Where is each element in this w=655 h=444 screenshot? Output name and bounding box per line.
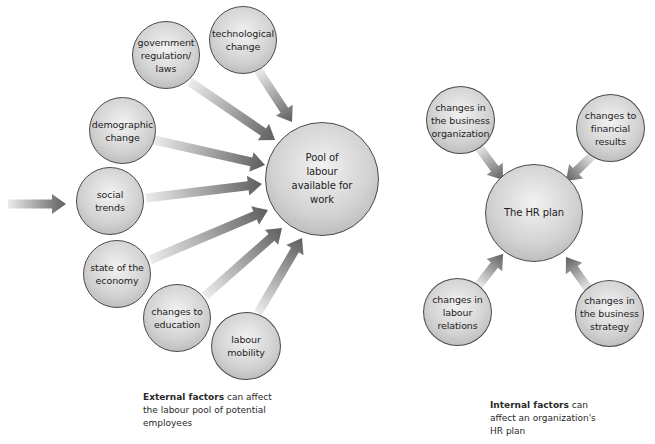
factor-changes-to-education: changes to education [143,284,211,352]
center-label: The HR plan [504,206,564,220]
factor-label: social trends [95,188,125,214]
factor-label: technological change [212,27,274,53]
factor-technological-change: technological change [209,6,277,74]
arrow-icon [8,194,66,214]
factor-label: changes in the business strategy [580,294,639,333]
caption-bold: External factors [143,392,224,402]
factor-social-trends: social trends [76,167,144,235]
factor-labour-relations: changes in labour relations [423,278,492,346]
center-pool-of-labour: Pool of labour available for work [265,122,379,236]
factor-label: changes in labour relations [432,293,483,332]
caption-bold: Internal factors [490,400,569,410]
arrow-icon [145,174,263,208]
factor-government-regulation: government regulation/ laws [132,21,200,89]
factor-label: changes in the business organization [431,101,490,140]
factor-label: state of the economy [90,261,144,287]
arrow-icon [152,130,267,175]
factor-labour-mobility: labour mobility [211,312,281,380]
center-label: Pool of labour available for work [292,151,353,207]
factor-label: labour mobility [227,333,265,359]
factor-business-organization: changes in the business organization [426,86,495,154]
arrow-icon [250,65,301,128]
factor-label: government regulation/ laws [138,36,195,75]
factor-business-strategy: changes in the business strategy [575,280,644,347]
center-hr-plan: The HR plan [485,164,583,262]
factor-demographic-change: demographic change [89,97,156,164]
external-caption: External factors can affect the labour p… [143,391,283,430]
factor-state-of-economy: state of the economy [83,240,151,308]
internal-caption: Internal factors can affect an organizat… [490,399,600,438]
factor-label: demographic change [92,118,154,144]
factor-label: changes to financial results [585,109,636,148]
factor-financial-results: changes to financial results [576,94,645,162]
factor-label: changes to education [151,305,202,331]
